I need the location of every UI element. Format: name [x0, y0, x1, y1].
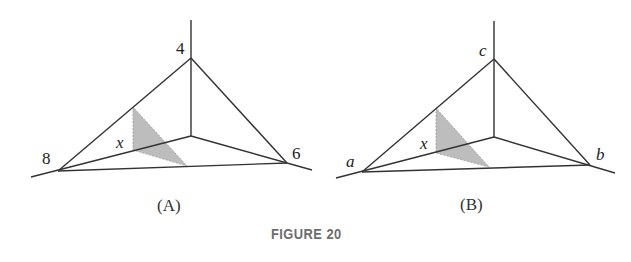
shaded-cross-section-b — [436, 108, 489, 167]
panel-label-a: (A) — [157, 196, 181, 215]
shaded-cross-section-a — [133, 107, 187, 166]
label-x-b: x — [419, 134, 428, 153]
edge-top-right-a — [191, 58, 287, 163]
diagram-a — [31, 20, 312, 177]
label-x-a: x — [115, 133, 124, 152]
label-right-a: 6 — [292, 144, 301, 163]
label-top-b: c — [479, 41, 487, 60]
figure-canvas: 4 8 6 x (A) c a b x (B) — [0, 0, 631, 262]
label-right-b: b — [596, 145, 605, 164]
edge-top-right-b — [494, 59, 590, 165]
diagram-b — [336, 21, 615, 178]
panel-label-b: (B) — [460, 195, 483, 214]
edge-bottom-a — [58, 163, 287, 171]
label-left-b: a — [346, 152, 355, 171]
label-top-a: 4 — [176, 39, 185, 58]
label-left-a: 8 — [42, 149, 51, 168]
figure-caption: FIGURE 20 — [271, 226, 342, 242]
edge-bottom-b — [362, 165, 590, 172]
